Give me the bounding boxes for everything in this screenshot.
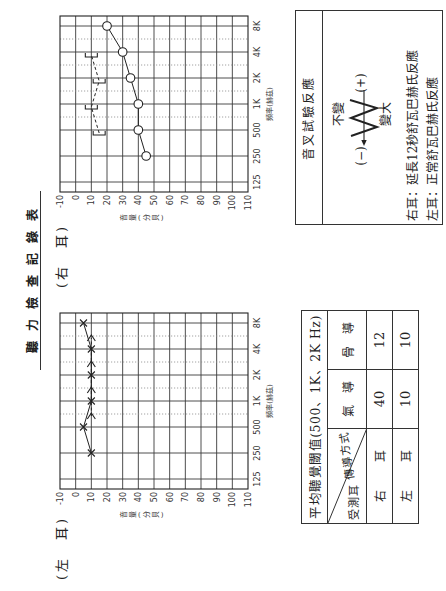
frequency-tick-label: 500 bbox=[253, 419, 262, 434]
frequency-tick-label: 4K bbox=[253, 46, 262, 57]
tuning-fork-title: 音叉試驗反應 bbox=[296, 11, 323, 224]
bone-conduction-value: 12 bbox=[367, 311, 393, 370]
bone-conduction-value: 10 bbox=[393, 311, 419, 370]
corner-header-cell: 傳導方式 受測耳 bbox=[328, 429, 367, 524]
db-tick-label: 60 bbox=[166, 195, 175, 205]
left-ear-label: (左 耳) bbox=[54, 516, 70, 580]
document-title: 聽力檢查記錄表 bbox=[26, 191, 41, 370]
x-axis-label: 頻率(赫茲) bbox=[266, 80, 274, 128]
frequency-tick-label: 4K bbox=[253, 343, 262, 354]
circle-marker-icon bbox=[134, 100, 143, 109]
db-tick-label: 0 bbox=[72, 195, 81, 200]
plus-label: (+) bbox=[354, 69, 368, 97]
db-tick-label: 20 bbox=[103, 195, 112, 205]
frequency-tick-label: 125 bbox=[253, 471, 262, 486]
frequency-tick-label: 500 bbox=[253, 122, 262, 137]
frequency-tick-label: 2K bbox=[253, 369, 262, 380]
right-ear-note: 右耳：延長12秒舒瓦巴赫氏反應 bbox=[403, 50, 423, 221]
db-tick-label: 100 bbox=[228, 195, 237, 210]
db-tick-label: 10 bbox=[87, 195, 96, 205]
db-tick-label: 80 bbox=[197, 195, 206, 205]
db-tick-label: 100 bbox=[228, 492, 237, 507]
right-ear-audiogram-plot: -1001020304050607080901001101252505001K2… bbox=[60, 16, 248, 192]
db-tick-label: 70 bbox=[181, 492, 190, 502]
bone-conduction-header: 骨 導 bbox=[328, 311, 367, 370]
db-tick-label: 90 bbox=[213, 492, 222, 502]
frequency-tick-label: 250 bbox=[253, 148, 262, 163]
circle-marker-icon bbox=[142, 152, 151, 161]
hearing-test-record-page: 聽力檢查記錄表 (左 耳) (右 耳) -1001020304050607080… bbox=[0, 0, 446, 591]
db-tick-label: 50 bbox=[150, 195, 159, 205]
x-axis-label: 頻率(赫茲) bbox=[266, 377, 274, 425]
circle-marker-icon bbox=[103, 22, 112, 31]
db-tick-label: 70 bbox=[181, 195, 190, 205]
frequency-tick-label: 1K bbox=[253, 395, 262, 406]
circle-marker-icon bbox=[118, 48, 127, 57]
right-ear-audiogram: -1001020304050607080901001101252505001K2… bbox=[60, 16, 248, 192]
db-tick-label: 0 bbox=[72, 492, 81, 497]
air-conduction-value: 40 bbox=[367, 370, 393, 429]
db-tick-label: 10 bbox=[87, 492, 96, 502]
db-tick-label: 110 bbox=[244, 492, 253, 507]
tested-ear-header: 受測耳 bbox=[345, 484, 361, 520]
row-ear-label: 右 耳 bbox=[367, 429, 393, 524]
db-tick-label: 30 bbox=[119, 492, 128, 502]
frequency-tick-label: 125 bbox=[253, 174, 262, 189]
circle-marker-icon bbox=[126, 74, 135, 83]
db-tick-label: -10 bbox=[56, 492, 65, 505]
tuning-fork-notes: 右耳：延長12秒舒瓦巴赫氏反應 左耳：正常舒瓦巴赫氏反應 bbox=[403, 50, 443, 221]
left-ear-note: 左耳：正常舒瓦巴赫氏反應 bbox=[423, 50, 443, 221]
table-row: 左 耳 10 10 bbox=[393, 311, 419, 524]
db-tick-label: -10 bbox=[56, 195, 65, 208]
db-tick-label: 20 bbox=[103, 492, 112, 502]
db-tick-label: 110 bbox=[244, 195, 253, 210]
left-ear-audiogram: -1001020304050607080901001101252505001K2… bbox=[60, 313, 248, 489]
tuning-fork-test-box: 音叉試驗反應 不變 (−) (+) 變大 右耳：延長12秒舒瓦巴赫氏反應 左耳：… bbox=[295, 10, 443, 225]
frequency-tick-label: 1K bbox=[253, 98, 262, 109]
average-threshold-title: 平均聽覺閾值(500、1K、2K Hz) bbox=[302, 311, 328, 524]
frequency-tick-label: 2K bbox=[253, 72, 262, 83]
y-axis-label: 音量(分貝) bbox=[120, 214, 165, 223]
frequency-tick-label: 250 bbox=[253, 445, 262, 460]
y-axis-label: 音量(分貝) bbox=[120, 511, 165, 520]
db-tick-label: 80 bbox=[197, 492, 206, 502]
db-tick-label: 40 bbox=[134, 195, 143, 205]
row-ear-label: 左 耳 bbox=[393, 429, 419, 524]
left-ear-audiogram-plot: -1001020304050607080901001101252505001K2… bbox=[60, 313, 248, 489]
audiogram-grid bbox=[60, 16, 248, 192]
circle-marker-icon bbox=[134, 126, 143, 135]
air-conduction-value: 10 bbox=[393, 370, 419, 429]
average-threshold-table: 平均聽覺閾值(500、1K、2K Hz) 傳導方式 受測耳 氣 導 骨 導 右 … bbox=[301, 310, 419, 524]
air-conduction-header: 氣 導 bbox=[328, 370, 367, 429]
unchanged-label: 不變 bbox=[332, 94, 346, 134]
right-ear-label: (右 耳) bbox=[54, 224, 70, 288]
db-tick-label: 60 bbox=[166, 492, 175, 502]
table-row: 右 耳 40 12 bbox=[367, 311, 393, 524]
louder-label: 變大 bbox=[379, 94, 393, 134]
db-tick-label: 90 bbox=[213, 195, 222, 205]
frequency-tick-label: 8K bbox=[253, 20, 262, 31]
db-tick-label: 50 bbox=[150, 492, 159, 502]
db-tick-label: 40 bbox=[134, 492, 143, 502]
db-tick-label: 30 bbox=[119, 195, 128, 205]
frequency-tick-label: 8K bbox=[253, 317, 262, 328]
